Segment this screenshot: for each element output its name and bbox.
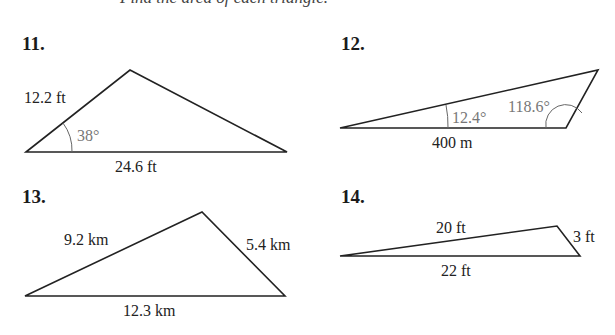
angle-label-11: 38°	[77, 127, 99, 144]
base-label-14: 22 ft	[441, 262, 471, 279]
triangle-13: 9.2 km 5.4 km 12.3 km	[25, 212, 291, 319]
side-label-11-left: 12.2 ft	[24, 89, 66, 106]
triangle-11: 12.2 ft 38° 24.6 ft	[24, 70, 287, 175]
triangle-12: 12.4° 118.6° 400 m	[340, 70, 598, 151]
side-label-14-right: 3 ft	[573, 228, 595, 245]
triangle-14: 20 ft 3 ft 22 ft	[340, 219, 595, 279]
triangle-figures: 12.2 ft 38° 24.6 ft 12.4° 118.6° 400 m 9…	[0, 0, 615, 335]
base-label-11: 24.6 ft	[115, 158, 157, 175]
base-label-12: 400 m	[432, 134, 473, 151]
base-label-13: 12.3 km	[123, 302, 176, 319]
angle-label-12-right: 118.6°	[508, 98, 550, 115]
side-label-13-left: 9.2 km	[64, 231, 109, 248]
side-label-14-top: 20 ft	[436, 219, 466, 236]
angle-label-12-left: 12.4°	[452, 109, 486, 126]
side-label-13-right: 5.4 km	[246, 236, 291, 253]
